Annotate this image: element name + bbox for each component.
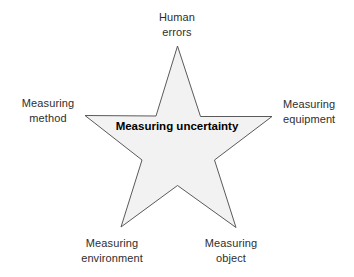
label-human-errors: Human errors — [127, 10, 227, 39]
label-human-errors-line-1: Human — [127, 10, 227, 25]
label-measuring-environment-line-1: Measuring — [52, 236, 172, 251]
label-human-errors-line-2: errors — [127, 25, 227, 40]
label-measuring-object-line-1: Measuring — [183, 236, 279, 251]
label-measuring-environment-line-2: environment — [52, 251, 172, 266]
label-measuring-method-line-1: Measuring — [6, 96, 90, 111]
label-measuring-equipment-line-2: equipment — [283, 112, 354, 127]
label-measuring-object-line-2: object — [183, 251, 279, 266]
center-label-line-1: Measuring — [116, 120, 174, 132]
label-measuring-equipment: Measuring equipment — [283, 97, 354, 126]
center-label-line-2: uncertainty — [176, 120, 238, 132]
label-measuring-object: Measuring object — [183, 236, 279, 265]
measuring-uncertainty-star-diagram: Measuring uncertainty Human errors Measu… — [0, 0, 354, 277]
label-measuring-method: Measuring method — [6, 96, 90, 125]
label-measuring-equipment-line-1: Measuring — [283, 97, 354, 112]
center-label-measuring-uncertainty: Measuring uncertainty — [112, 119, 242, 133]
five-pointed-star-polygon — [85, 46, 272, 228]
label-measuring-environment: Measuring environment — [52, 236, 172, 265]
label-measuring-method-line-2: method — [6, 111, 90, 126]
